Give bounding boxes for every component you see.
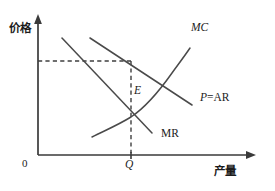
y-axis-label: 价格	[9, 22, 24, 35]
equilibrium-point-label: E	[134, 85, 141, 97]
x-axis-label: 产量	[214, 166, 236, 178]
average-revenue-symbol: =AR	[207, 91, 229, 103]
marginal-revenue-curve-label: MR	[161, 128, 179, 140]
monopoly-equilibrium-figure: 价格 产量 0 Q E MC MR P=AR	[0, 0, 275, 191]
quantity-axis-label: Q	[125, 159, 133, 171]
average-revenue-curve-label: P=AR	[200, 92, 230, 104]
y-axis-arrow-icon	[34, 14, 42, 24]
origin-label: 0	[22, 158, 28, 169]
marginal-cost-curve-label: MC	[191, 22, 208, 34]
x-axis-arrow-icon	[246, 151, 256, 159]
price-symbol: P	[200, 91, 207, 103]
